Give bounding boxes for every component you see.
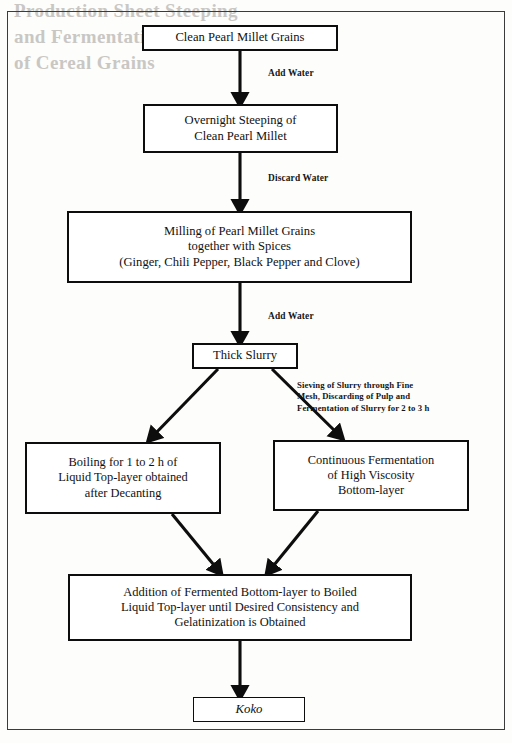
node-label-line-2: Liquid Top-layer until Desired Consisten… [121,600,359,614]
node-label-line-3: Gelatinization is Obtained [174,615,305,629]
node-milling-with-spices[interactable]: Milling of Pearl Millet Grains together … [67,211,412,283]
edge-label-add-water-2: Add Water [268,311,314,321]
node-label: Clean Pearl Millet Grains [148,30,332,45]
node-label: Koko [198,702,300,718]
edge-label-discard-water: Discard Water [268,173,328,183]
node-overnight-steeping[interactable]: Overnight Steeping of Clean Pearl Millet [143,104,338,153]
node-label: Thick Slurry [198,348,292,363]
figure-page: Production Sheet Steeping and Fermentati… [0,0,512,743]
node-boiling-top-layer[interactable]: Boiling for 1 to 2 h of Liquid Top-layer… [25,442,221,514]
node-label-line-2: Clean Pearl Millet [194,129,286,143]
node-label-line-1: Milling of Pearl Millet Grains [164,224,315,238]
node-label-line-1: Continuous Fermentation [308,453,434,467]
edge-label-line-3: Fermentation of Slurry for 2 to 3 h [297,403,475,414]
node-label-line-1: Addition of Fermented Bottom-layer to Bo… [123,585,357,599]
node-label-line-2: together with Spices [188,239,291,253]
node-thick-slurry[interactable]: Thick Slurry [192,343,298,369]
edge-label-line-2: Mesh, Discarding of Pulp and [297,391,475,402]
node-label-line-3: (Ginger, Chili Pepper, Black Pepper and … [119,255,359,269]
node-label-line-2: Liquid Top-layer obtained [58,470,188,484]
node-label-line-2: of High Viscosity [327,468,414,482]
node-label-line-3: after Decanting [85,486,162,500]
node-addition-gelatinization[interactable]: Addition of Fermented Bottom-layer to Bo… [68,574,412,641]
node-label-line-1: Overnight Steeping of [185,113,297,127]
edge-label-add-water-1: Add Water [268,68,314,78]
edge-label-sieving-fermentation: Sieving of Slurry through Fine Mesh, Dis… [297,380,475,414]
node-clean-pearl-millet-grains[interactable]: Clean Pearl Millet Grains [142,25,338,51]
node-label-line-1: Boiling for 1 to 2 h of [69,455,178,469]
node-koko[interactable]: Koko [193,697,305,722]
node-label-line-3: Bottom-layer [338,483,404,497]
node-continuous-fermentation[interactable]: Continuous Fermentation of High Viscosit… [273,440,469,511]
edge-label-line-1: Sieving of Slurry through Fine [297,380,475,391]
